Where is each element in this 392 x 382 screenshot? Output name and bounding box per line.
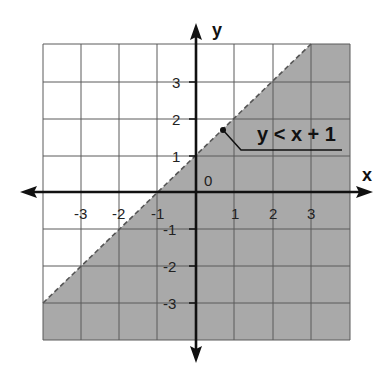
x-tick-label: -3 (74, 205, 87, 222)
origin-label: 0 (204, 172, 212, 189)
x-tick-label: -2 (112, 205, 125, 222)
y-tick-label: 2 (172, 111, 180, 128)
y-tick-label: 1 (172, 148, 180, 165)
y-tick-label: -3 (163, 295, 176, 312)
x-tick-label: 2 (269, 205, 277, 222)
x-axis-label: x (362, 165, 372, 185)
y-axis-label: y (212, 20, 222, 40)
y-tick-label: 3 (172, 74, 180, 91)
x-tick-label: 1 (231, 205, 239, 222)
inequality-label: y < x + 1 (257, 123, 336, 145)
x-tick-label: 3 (307, 205, 315, 222)
y-tick-label: -1 (163, 221, 176, 238)
inequality-graph: y x 0 -3 -2 -1 1 2 3 3 2 1 -1 -2 -3 y < … (0, 0, 392, 382)
y-tick-label: -2 (163, 258, 176, 275)
x-tick-label: -1 (151, 205, 164, 222)
